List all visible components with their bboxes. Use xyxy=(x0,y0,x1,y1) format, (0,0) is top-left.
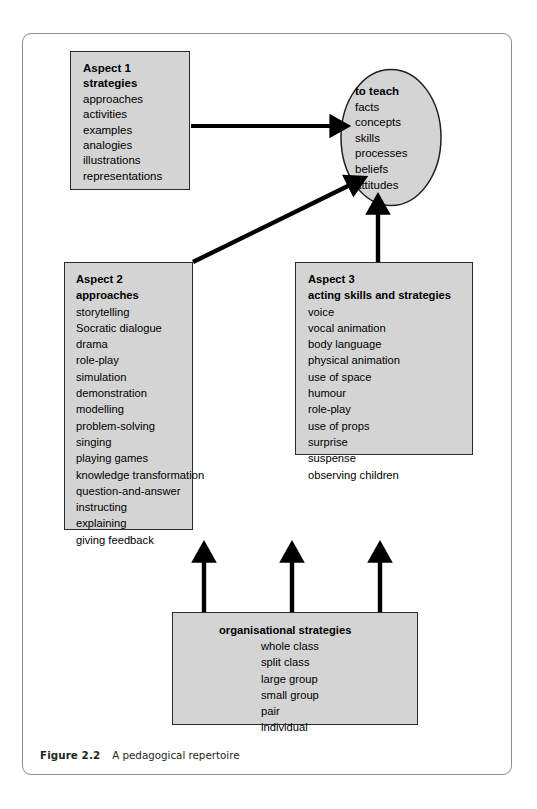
aspect-3-content: Aspect 3 acting skills and strategies vo… xyxy=(296,263,472,483)
organisational-strategies-content: organisational strategies whole class sp… xyxy=(173,613,417,735)
aspect-3-item: use of props xyxy=(308,418,472,434)
to-teach-item: concepts xyxy=(355,115,441,131)
organisational-strategies-box: organisational strategies whole class sp… xyxy=(172,612,418,725)
figure-caption-text: A pedagogical repertoire xyxy=(112,749,239,761)
figure-caption: Figure 2.2A pedagogical repertoire xyxy=(40,749,240,761)
organisational-item: individual xyxy=(173,719,417,735)
aspect-3-item: humour xyxy=(308,385,472,401)
aspect-1-item: activities xyxy=(83,107,189,122)
aspect-2-item: drama xyxy=(76,336,192,352)
to-teach-item: facts xyxy=(355,100,441,116)
to-teach-content: to teach facts concepts skills processes… xyxy=(355,84,441,193)
organisational-item: large group xyxy=(173,671,417,687)
aspect-1-item: analogies xyxy=(83,138,189,153)
aspect-2-item: singing xyxy=(76,434,192,450)
aspect-2-item: problem-solving xyxy=(76,418,192,434)
pedagogical-repertoire-figure: Aspect 1 strategies approaches activitie… xyxy=(0,0,537,809)
to-teach-item: processes xyxy=(355,146,441,162)
aspect-1-item: examples xyxy=(83,123,189,138)
aspect-2-item: demonstration xyxy=(76,385,192,401)
organisational-item: whole class xyxy=(173,638,417,654)
to-teach-item: skills xyxy=(355,131,441,147)
aspect-1-title-line-1: Aspect 1 xyxy=(83,61,189,76)
aspect-2-item: giving feedback xyxy=(76,532,192,548)
aspect-3-item: suspense xyxy=(308,450,472,466)
aspect-3-item: vocal animation xyxy=(308,320,472,336)
aspect-2-item: explaining xyxy=(76,515,192,531)
aspect-3-title-line-2: acting skills and strategies xyxy=(308,287,472,303)
aspect-1-title-line-2: strategies xyxy=(83,76,189,91)
aspect-2-title-line-1: Aspect 2 xyxy=(76,271,192,287)
aspect-3-item: body language xyxy=(308,336,472,352)
aspect-3-item: surprise xyxy=(308,434,472,450)
aspect-3-item: observing children xyxy=(308,467,472,483)
aspect-2-item: modelling xyxy=(76,401,192,417)
aspect-3-item: voice xyxy=(308,304,472,320)
aspect-1-item: illustrations xyxy=(83,153,189,168)
aspect-1-item: representations xyxy=(83,169,189,184)
aspect-3-item: physical animation xyxy=(308,352,472,368)
organisational-item: pair xyxy=(173,703,417,719)
aspect-2-item: knowledge transformation xyxy=(76,467,192,483)
organisational-item: split class xyxy=(173,654,417,670)
aspect-2-title-line-2: approaches xyxy=(76,287,192,303)
aspect-2-item: storytelling xyxy=(76,304,192,320)
aspect-3-title-line-1: Aspect 3 xyxy=(308,271,472,287)
aspect-1-box: Aspect 1 strategies approaches activitie… xyxy=(70,51,190,190)
aspect-2-item: role-play xyxy=(76,352,192,368)
organisational-item: small group xyxy=(173,687,417,703)
aspect-2-item: Socratic dialogue xyxy=(76,320,192,336)
aspect-1-item: approaches xyxy=(83,92,189,107)
aspect-3-item: use of space xyxy=(308,369,472,385)
aspect-2-item: playing games xyxy=(76,450,192,466)
figure-caption-label: Figure 2.2 xyxy=(40,749,100,761)
aspect-2-content: Aspect 2 approaches storytelling Socrati… xyxy=(65,263,192,548)
to-teach-title: to teach xyxy=(355,84,441,100)
organisational-strategies-title: organisational strategies xyxy=(173,622,417,638)
aspect-3-item: role-play xyxy=(308,401,472,417)
to-teach-item: attitudes xyxy=(355,178,441,194)
aspect-3-box: Aspect 3 acting skills and strategies vo… xyxy=(295,262,473,455)
aspect-2-item: instructing xyxy=(76,499,192,515)
aspect-2-box: Aspect 2 approaches storytelling Socrati… xyxy=(64,262,193,530)
aspect-2-item: simulation xyxy=(76,369,192,385)
aspect-1-content: Aspect 1 strategies approaches activitie… xyxy=(71,52,189,184)
to-teach-item: beliefs xyxy=(355,162,441,178)
aspect-2-item: question-and-answer xyxy=(76,483,192,499)
